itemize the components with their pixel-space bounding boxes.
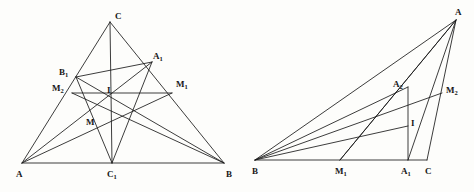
point-label-m: M	[86, 118, 95, 127]
point-label-a: A	[455, 8, 462, 17]
point-label-text: A	[393, 79, 400, 89]
point-label-subscript: 2	[61, 87, 64, 94]
cevian-A-to-A1	[22, 62, 152, 163]
point-label-text: B	[226, 169, 232, 179]
point-label-text: M	[86, 117, 95, 127]
point-label-c: C	[425, 167, 432, 176]
point-label-a1: A1	[153, 52, 163, 61]
point-label-m2: M2	[446, 86, 458, 95]
point-label-a2: A2	[393, 80, 403, 89]
point-label-b1: B1	[59, 68, 68, 77]
point-label-subscript: 1	[344, 170, 347, 177]
point-label-text: M	[52, 83, 61, 93]
point-label-subscript: 2	[455, 89, 458, 96]
point-label-text: C	[115, 11, 122, 21]
point-label-m2: M2	[52, 84, 64, 93]
geometry-figure-board: CA1B1M2M1IMAC1B AA2M2IBM1A1C	[0, 0, 474, 192]
point-label-b: B	[252, 167, 258, 176]
geometry-svg-canvas	[0, 0, 474, 192]
point-label-subscript: 1	[114, 173, 117, 180]
point-label-subscript: 1	[408, 170, 411, 177]
point-label-m1: M1	[176, 80, 188, 89]
point-label-i: I	[411, 119, 415, 128]
point-label-a1: A1	[401, 167, 411, 176]
cevian-B-to-I	[255, 126, 408, 160]
point-label-subscript: 1	[65, 71, 68, 78]
point-label-c: C	[115, 12, 122, 21]
cevian-B-to-B1	[76, 77, 224, 163]
side-BA	[255, 20, 456, 160]
cevian-B-to-A2	[255, 87, 408, 160]
point-label-subscript: 1	[160, 55, 163, 62]
point-label-subscript: 1	[185, 83, 188, 90]
point-label-text: M	[335, 166, 344, 176]
point-label-a: A	[16, 170, 23, 179]
point-label-text: A	[153, 51, 160, 61]
side-AC	[22, 22, 110, 163]
point-label-text: A	[455, 7, 462, 17]
point-label-i: I	[107, 86, 111, 95]
point-label-text: C	[425, 166, 432, 176]
point-label-subscript: 2	[400, 83, 403, 90]
segment-M1-A	[340, 20, 456, 160]
point-label-text: A	[401, 166, 408, 176]
point-label-c1: C1	[107, 170, 117, 179]
point-label-text: M	[446, 85, 455, 95]
cevian-B-to-M2	[72, 93, 224, 163]
point-label-b: B	[226, 170, 232, 179]
point-label-text: C	[107, 169, 114, 179]
point-label-text: A	[16, 169, 23, 179]
segment-B1-A1	[76, 62, 152, 77]
point-label-text: M	[176, 79, 185, 89]
point-label-text: I	[107, 85, 111, 95]
point-label-text: I	[411, 118, 415, 128]
side-CB	[110, 22, 224, 163]
point-label-m1: M1	[335, 167, 347, 176]
point-label-text: B	[252, 166, 258, 176]
right-figure-lines	[255, 20, 456, 160]
